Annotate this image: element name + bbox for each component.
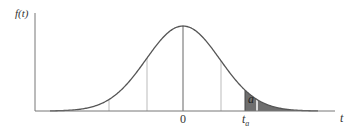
zero-tick-label: 0 — [180, 113, 186, 125]
reference-lines — [109, 26, 245, 111]
x-axis-label: t — [340, 112, 343, 124]
ta-tick-label: ta — [242, 113, 249, 128]
density-curve — [50, 26, 318, 111]
area-label: a — [248, 93, 254, 105]
t-distribution-figure: f(t) t 0 ta a — [0, 0, 361, 131]
y-axis-label: f(t) — [15, 8, 28, 19]
ta-subscript: a — [245, 119, 249, 128]
shaded-tail-area — [245, 90, 318, 111]
